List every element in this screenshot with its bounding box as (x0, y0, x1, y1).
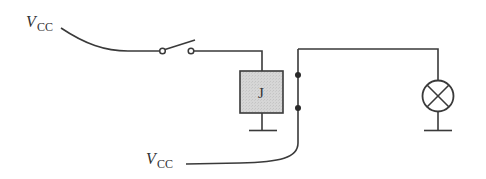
circuit-diagram: V CC J V CC (0, 0, 486, 179)
svg-text:CC: CC (37, 20, 53, 34)
contact-dot-bottom (295, 105, 301, 111)
ground-relay (249, 113, 277, 131)
switch-terminal-left (160, 48, 166, 54)
vcc-top-label: V CC (26, 13, 53, 34)
svg-text:CC: CC (157, 157, 173, 171)
relay-label: J (258, 85, 264, 101)
switch-terminal-right (188, 48, 194, 54)
vcc-top-wire (61, 28, 160, 51)
vcc-bottom-label: V CC (146, 150, 173, 171)
ground-lamp (424, 112, 452, 131)
contact-dot-top (295, 72, 301, 78)
relay-coil: J (240, 71, 283, 113)
switch-to-relay-wire (194, 51, 262, 71)
lamp-icon (423, 81, 454, 112)
circuit-svg: V CC J V CC (0, 0, 486, 179)
contact-to-lamp-wire (298, 49, 438, 80)
switch[interactable] (160, 40, 195, 54)
